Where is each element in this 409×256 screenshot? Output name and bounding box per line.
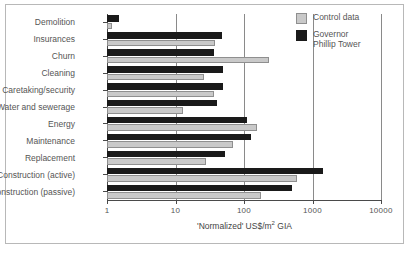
bar-control-data — [107, 192, 261, 199]
x-tick-label-1: 1 — [105, 206, 110, 215]
chart-legend: Control data Governor Phillip Tower — [296, 12, 402, 46]
bar-control-data — [107, 91, 214, 98]
bar-control-data — [107, 141, 233, 148]
bar-governor-phillip-tower — [107, 66, 223, 73]
x-tick-mark-1000 — [313, 200, 314, 204]
bar-control-data — [107, 40, 215, 47]
bar-group: Caretaking/security — [107, 82, 381, 99]
legend-item-governor-phillip-tower: Governor Phillip Tower — [296, 29, 402, 41]
x-tick-label-10: 10 — [171, 206, 181, 215]
bar-governor-phillip-tower — [107, 32, 222, 39]
bar-group: Replacement — [107, 149, 381, 166]
category-label: Construction (passive) — [0, 187, 75, 197]
bar-group: Energy — [107, 115, 381, 132]
category-label: Caretaking/security — [2, 85, 75, 95]
x-tick-label-100: 100 — [237, 206, 251, 215]
legend-item-control-data: Control data — [296, 12, 402, 24]
bar-group: Maintenance — [107, 132, 381, 149]
x-axis-title-prefix: 'Normalized' US$/m — [197, 221, 272, 231]
bar-governor-phillip-tower — [107, 15, 119, 22]
bar-group: Churn — [107, 48, 381, 65]
bar-control-data — [107, 124, 257, 131]
bar-control-data — [107, 57, 269, 64]
legend-swatch-control-data — [296, 13, 307, 24]
chart-figure: DemolitionInsurancesChurnCleaningCaretak… — [0, 0, 409, 256]
bar-control-data — [107, 74, 204, 81]
x-tick-mark-1 — [107, 200, 108, 204]
bar-group: Water and sewerage — [107, 99, 381, 116]
bar-governor-phillip-tower — [107, 100, 217, 107]
category-label: Churn — [52, 51, 75, 61]
x-axis-title: 'Normalized' US$/m2 GIA — [107, 220, 382, 231]
bar-governor-phillip-tower — [107, 49, 214, 56]
bar-governor-phillip-tower — [107, 117, 247, 124]
x-tick-label-10000: 10000 — [369, 206, 393, 215]
category-label: Replacement — [25, 153, 75, 163]
bar-control-data — [107, 175, 297, 182]
category-label: Energy — [48, 119, 75, 129]
bar-control-data — [107, 158, 206, 165]
category-label: Demolition — [35, 17, 75, 27]
bar-group: Construction (passive) — [107, 183, 381, 200]
bar-governor-phillip-tower — [107, 151, 225, 158]
bar-governor-phillip-tower — [107, 185, 292, 192]
category-label: Cleaning — [41, 68, 75, 78]
legend-label-control-data: Control data — [313, 12, 359, 22]
x-tick-mark-100 — [244, 200, 245, 204]
category-label: Maintenance — [26, 136, 75, 146]
x-tick-mark-10000 — [381, 200, 382, 204]
x-tick-mark-10 — [176, 200, 177, 204]
legend-swatch-governor-phillip-tower — [296, 30, 307, 41]
bar-group: Cleaning — [107, 65, 381, 82]
x-axis-title-suffix: GIA — [275, 221, 292, 231]
bar-governor-phillip-tower — [107, 134, 251, 141]
legend-label-governor-phillip-tower: Governor Phillip Tower — [313, 29, 361, 49]
bar-governor-phillip-tower — [107, 83, 223, 90]
category-label: Water and sewerage — [0, 102, 75, 112]
bar-control-data — [107, 107, 183, 114]
bar-control-data — [107, 23, 112, 30]
x-tick-label-1000: 1000 — [303, 206, 322, 215]
bar-group: Construction (active) — [107, 166, 381, 183]
category-label: Construction (active) — [0, 170, 75, 180]
category-label: Insurances — [33, 34, 75, 44]
bar-governor-phillip-tower — [107, 168, 323, 175]
